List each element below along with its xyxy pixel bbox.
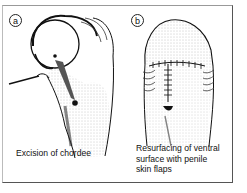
caption-b-line-1: Resurfacing of ventral xyxy=(136,143,236,154)
caption-b-line-2: surface with penile xyxy=(136,154,236,165)
panel-label-b: b xyxy=(131,14,144,27)
panel-b: b Resurfacing of ventral surface with pe… xyxy=(125,6,235,182)
panel-label-a: a xyxy=(9,14,22,27)
caption-b: Resurfacing of ventral surface with peni… xyxy=(136,143,236,175)
caption-a: Excision of chordee xyxy=(16,148,91,159)
figure-frame: a Excision of chordee xyxy=(2,5,233,183)
caption-b-line-3: skin flaps xyxy=(136,164,236,175)
panel-a: a Excision of chordee xyxy=(3,6,125,182)
